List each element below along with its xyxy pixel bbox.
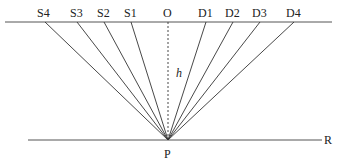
label-d1: D1 bbox=[198, 6, 213, 21]
label-s4: S4 bbox=[37, 6, 50, 21]
label-h: h bbox=[176, 66, 182, 81]
label-d2: D2 bbox=[225, 6, 240, 21]
label-d3: D3 bbox=[252, 6, 267, 21]
label-p: P bbox=[164, 147, 171, 162]
label-d4: D4 bbox=[286, 6, 301, 21]
label-s2: S2 bbox=[97, 6, 110, 21]
label-r: R bbox=[324, 133, 332, 148]
label-s3: S3 bbox=[70, 6, 83, 21]
label-o: O bbox=[163, 6, 172, 21]
label-s1: S1 bbox=[124, 6, 137, 21]
